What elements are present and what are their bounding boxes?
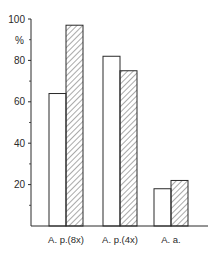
y-axis-label: % [15, 35, 24, 46]
x-category-label: A. p.(4x) [102, 234, 138, 245]
bar-hatched [120, 71, 137, 226]
bar-open [154, 189, 171, 226]
bars [49, 25, 188, 226]
y-tick-label: 20 [14, 179, 26, 190]
y-tick-label: 60 [14, 96, 26, 107]
y-tick-label: 80 [14, 55, 26, 66]
x-axis: A. p.(8x)A. p.(4x)A. a. [31, 226, 208, 245]
bar-chart: 20406080100% A. p.(8x)A. p.(4x)A. a. [0, 0, 217, 266]
x-category-label: A. p.(8x) [48, 234, 84, 245]
y-tick-label: 100 [8, 14, 25, 25]
x-category-label: A. a. [161, 234, 181, 245]
bar-hatched [66, 25, 83, 226]
y-axis: 20406080100% [8, 14, 31, 227]
y-tick-label: 40 [14, 138, 26, 149]
bar-open [103, 56, 120, 226]
bar-hatched [171, 180, 188, 226]
bar-open [49, 94, 66, 226]
